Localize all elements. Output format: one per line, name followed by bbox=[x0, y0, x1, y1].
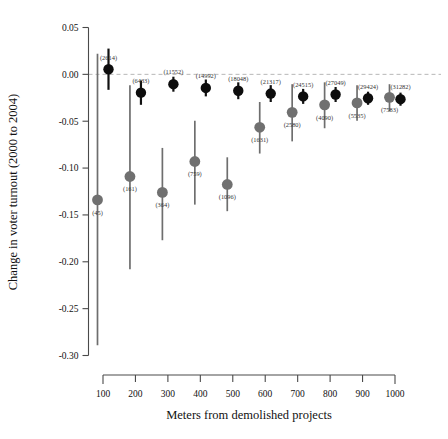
y-axis-title: Change in voter turnout (2000 to 2004) bbox=[6, 94, 20, 291]
data-point-group: (24515) bbox=[293, 81, 313, 104]
y-axis-tick-label: 0.05 bbox=[62, 23, 79, 33]
x-axis-tick-label: 900 bbox=[355, 389, 370, 399]
data-point-marker bbox=[287, 107, 298, 118]
data-point-group: (4090) bbox=[316, 82, 333, 128]
data-point-marker bbox=[254, 122, 265, 133]
data-point-group: (1631) bbox=[251, 102, 268, 154]
x-axis-tick-label: 100 bbox=[96, 389, 111, 399]
data-point-group: (6433) bbox=[132, 77, 149, 105]
data-point-group: (14992) bbox=[196, 72, 216, 96]
data-point-marker bbox=[222, 179, 233, 190]
sample-size-label: (5535) bbox=[349, 112, 366, 120]
data-point-marker bbox=[189, 156, 200, 167]
sample-size-label: (2580) bbox=[284, 121, 301, 129]
x-axis-title: Meters from demolished projects bbox=[166, 408, 332, 422]
data-point-group: (45) bbox=[92, 54, 103, 345]
sample-size-label: (161) bbox=[123, 185, 137, 193]
data-point-group: (1096) bbox=[219, 157, 236, 211]
data-point-marker bbox=[92, 195, 103, 206]
sample-size-label: (759) bbox=[188, 170, 202, 178]
y-axis-tick-label: -0.05 bbox=[59, 117, 79, 127]
sample-size-label: (6433) bbox=[132, 77, 149, 85]
x-axis-tick-label: 400 bbox=[193, 389, 208, 399]
data-point-marker bbox=[298, 91, 308, 101]
sample-size-label: (4090) bbox=[316, 114, 333, 122]
data-point-group: (364) bbox=[155, 148, 169, 240]
data-point-marker bbox=[384, 92, 395, 103]
y-axis-tick-label: -0.15 bbox=[59, 210, 79, 220]
data-point-marker bbox=[352, 98, 363, 109]
sample-size-label: (29424) bbox=[358, 83, 378, 91]
chart-figure: 0.050.00-0.05-0.10-0.15-0.20-0.25-0.30 1… bbox=[0, 0, 448, 439]
x-axis-tick-label: 700 bbox=[291, 389, 306, 399]
data-point-group: (161) bbox=[123, 85, 137, 269]
y-axis: 0.050.00-0.05-0.10-0.15-0.20-0.25-0.30 bbox=[59, 23, 89, 361]
data-point-group: (5535) bbox=[349, 85, 366, 121]
data-point-group: (2614) bbox=[100, 49, 117, 90]
data-point-marker bbox=[103, 64, 113, 74]
data-point-marker bbox=[125, 171, 136, 182]
x-axis-tick-label: 500 bbox=[226, 389, 241, 399]
data-point-group: (27049) bbox=[325, 79, 345, 102]
data-point-group: (2580) bbox=[284, 84, 301, 141]
sample-size-label: (7583) bbox=[381, 106, 398, 114]
sample-size-label: (11552) bbox=[163, 68, 183, 76]
data-point-marker bbox=[319, 99, 330, 110]
series-grey-displaced: (45)(161)(364)(759)(1096)(1631)(2580)(40… bbox=[92, 54, 398, 345]
data-point-group: (21317) bbox=[261, 78, 281, 102]
data-point-marker bbox=[201, 83, 211, 93]
sample-size-label: (21317) bbox=[261, 78, 281, 86]
axis-titles: Meters from demolished projectsChange in… bbox=[6, 94, 332, 422]
x-axis-tick-label: 1000 bbox=[386, 389, 405, 399]
sample-size-label: (27049) bbox=[325, 79, 345, 87]
x-axis-tick-label: 300 bbox=[161, 389, 176, 399]
sample-size-label: (31282) bbox=[390, 83, 410, 91]
data-point-group: (11552) bbox=[163, 68, 183, 91]
sample-size-label: (2614) bbox=[100, 54, 117, 62]
y-axis-tick-label: -0.25 bbox=[59, 304, 79, 314]
x-axis: 1002003004005006007008009001000 bbox=[96, 375, 405, 399]
voter-turnout-scatter-plot: 0.050.00-0.05-0.10-0.15-0.20-0.25-0.30 1… bbox=[0, 0, 448, 439]
sample-size-label: (18048) bbox=[228, 75, 248, 83]
data-point-marker bbox=[363, 93, 373, 103]
y-axis-tick-label: -0.20 bbox=[59, 257, 79, 267]
sample-size-label: (45) bbox=[92, 209, 103, 217]
data-point-marker bbox=[395, 94, 405, 104]
data-point-marker bbox=[233, 86, 243, 96]
data-point-marker bbox=[266, 88, 276, 98]
sample-size-label: (1631) bbox=[251, 136, 268, 144]
data-point-marker bbox=[136, 87, 146, 97]
sample-size-label: (24515) bbox=[293, 81, 313, 89]
x-axis-tick-label: 800 bbox=[323, 389, 338, 399]
x-axis-tick-label: 600 bbox=[258, 389, 273, 399]
sample-size-label: (364) bbox=[155, 201, 169, 209]
y-axis-tick-label: -0.10 bbox=[59, 163, 79, 173]
data-point-marker bbox=[168, 79, 178, 89]
data-point-marker bbox=[157, 187, 168, 198]
series-black-nondisplaced: (2614)(6433)(11552)(14992)(18048)(21317)… bbox=[100, 49, 411, 106]
data-point-group: (18048) bbox=[228, 75, 248, 99]
data-point-group: (759) bbox=[188, 121, 202, 205]
y-axis-tick-label: 0.00 bbox=[62, 70, 79, 80]
y-axis-tick-label: -0.30 bbox=[59, 351, 79, 361]
sample-size-label: (14992) bbox=[196, 72, 216, 80]
sample-size-label: (1096) bbox=[219, 193, 236, 201]
x-axis-tick-label: 200 bbox=[128, 389, 143, 399]
data-point-marker bbox=[330, 89, 340, 99]
